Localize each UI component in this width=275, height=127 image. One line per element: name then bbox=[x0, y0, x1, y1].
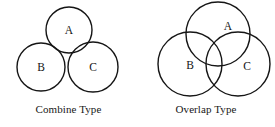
overlap-type-group: A B C bbox=[158, 2, 270, 96]
overlap-label-b: B bbox=[186, 59, 194, 71]
overlap-type-caption: Overlap Type bbox=[137, 103, 275, 116]
combine-label-b: B bbox=[37, 61, 45, 73]
overlap-label-c: C bbox=[243, 60, 251, 72]
combine-type-group: A B C bbox=[17, 7, 118, 92]
overlap-circle-c bbox=[206, 32, 270, 96]
combine-type-caption: Combine Type bbox=[0, 103, 137, 116]
combine-label-a: A bbox=[65, 24, 74, 36]
diagram-figure: A B C A B C Combine Type Overlap Type bbox=[0, 0, 275, 127]
overlap-label-a: A bbox=[224, 20, 233, 32]
combine-label-c: C bbox=[89, 61, 97, 73]
overlap-circle-a bbox=[186, 2, 250, 66]
